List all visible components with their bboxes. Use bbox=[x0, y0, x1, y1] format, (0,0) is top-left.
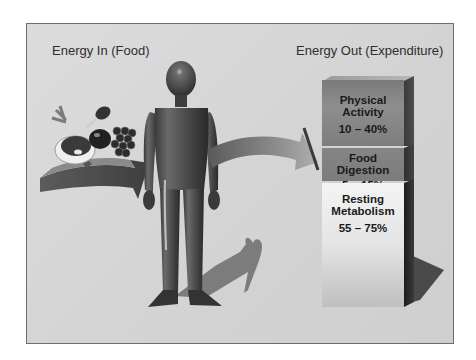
chicken-leg-icon bbox=[86, 104, 113, 128]
block-side-physical bbox=[404, 76, 414, 146]
block-side-digestion bbox=[404, 144, 414, 181]
energy-in-arrow bbox=[40, 158, 149, 199]
block-range: 55 – 75% bbox=[322, 222, 404, 234]
food-group bbox=[52, 104, 136, 168]
block-range: 10 – 40% bbox=[322, 123, 404, 135]
expenditure-stack: Physical Activity 10 – 40% Food Digestio… bbox=[322, 76, 414, 308]
energy-out-arrow bbox=[208, 128, 318, 170]
grapes-icon bbox=[111, 127, 136, 157]
block-title: Food Digestion bbox=[322, 152, 404, 176]
steak-icon bbox=[55, 136, 95, 164]
block-physical-activity: Physical Activity 10 – 40% bbox=[322, 80, 404, 146]
block-title: Physical bbox=[322, 94, 404, 106]
block-side-resting bbox=[404, 179, 414, 307]
block-title: Resting bbox=[322, 193, 404, 205]
block-shadow bbox=[413, 256, 444, 302]
tomato-icon bbox=[89, 129, 111, 149]
block-food-digestion: Food Digestion 5 – 15% bbox=[322, 148, 404, 181]
block-title: Metabolism bbox=[322, 205, 404, 217]
block-title: Activity bbox=[322, 106, 404, 118]
block-resting-metabolism: Resting Metabolism 55 – 75% bbox=[322, 183, 404, 307]
